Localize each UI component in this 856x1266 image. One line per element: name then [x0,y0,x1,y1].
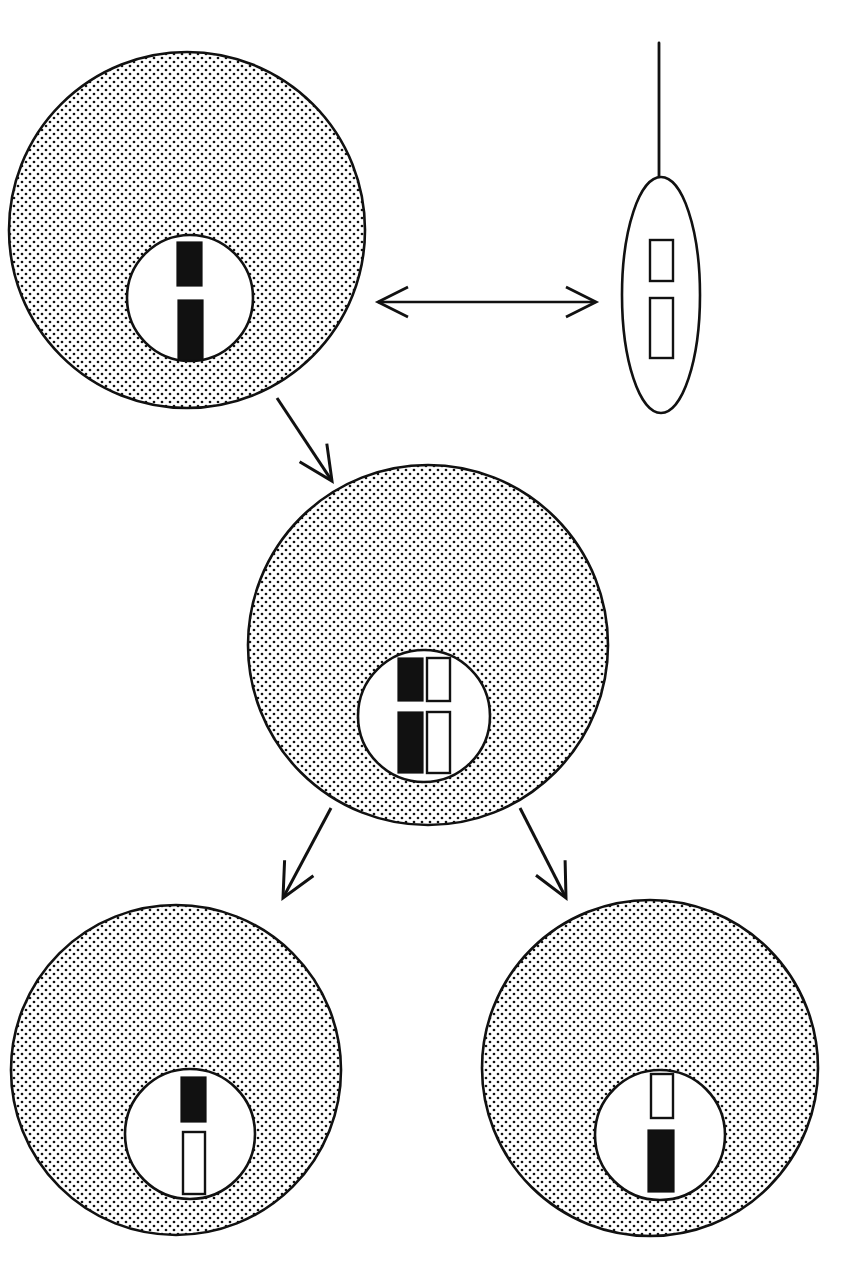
chromosome-maternal-long [648,1130,674,1192]
cleavage-arrow-left-shaft [284,808,331,896]
chromosome-maternal-short [181,1077,206,1122]
chromosome-maternal-long [178,300,203,360]
cleavage-arrow-left [283,808,331,898]
zygote-nucleus [358,650,490,782]
egg-sperm-double-arrow [378,287,596,317]
chromosome-paternal-long [427,712,450,773]
chromosome-maternal-short [177,242,202,286]
daughter-cell-right [482,900,818,1236]
cleavage-arrow-right-shaft [520,808,565,896]
daughter-cell-left [11,905,341,1235]
fertilization-arrow [277,398,332,481]
sperm-head-membrane [622,177,700,413]
chromosome-maternal-short [398,658,423,701]
chromosome-paternal-short [651,1074,673,1118]
diagram-canvas [0,0,856,1266]
chromosome-paternal-short [650,240,673,281]
chromosome-paternal-long [183,1132,205,1194]
fertilization-arrow-shaft [277,398,331,479]
chromosome-maternal-long [398,712,423,773]
egg-cell [9,52,365,408]
cleavage-arrow-right [520,808,566,898]
zygote-cell [248,465,608,825]
chromosome-paternal-long [650,298,673,358]
sperm-cell [622,43,700,413]
fertilization-diagram [0,0,856,1266]
chromosome-paternal-short [427,658,450,701]
